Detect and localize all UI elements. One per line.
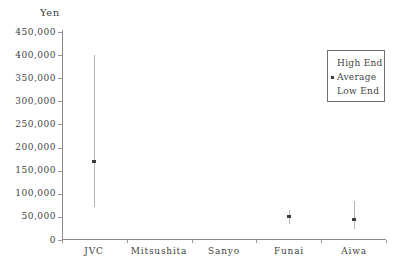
x-tick-mark: [256, 240, 257, 243]
x-tick-mark: [127, 240, 128, 243]
y-tick-mark: [58, 32, 62, 33]
legend-entry: Low End: [328, 84, 384, 98]
y-axis-title: Yen: [40, 7, 84, 18]
y-tick-mark: [58, 101, 62, 102]
x-category-label: JVC: [59, 246, 129, 257]
y-tick-label: 0: [0, 235, 56, 246]
legend-entry: High End: [328, 56, 384, 70]
y-tick-mark: [58, 148, 62, 149]
x-category-label: Funai: [254, 246, 324, 257]
y-tick-label: 400,000: [0, 50, 56, 61]
x-category-label: Sanyo: [189, 246, 259, 257]
average-marker-icon: [331, 76, 334, 79]
y-tick-label: 50,000: [0, 211, 56, 222]
x-category-label: Mitsushita: [124, 246, 194, 257]
y-tick-label: 300,000: [0, 96, 56, 107]
average-marker: [287, 215, 291, 218]
legend: High EndAverageLow End: [327, 50, 385, 102]
y-tick-mark: [58, 78, 62, 79]
legend-entry: Average: [328, 70, 384, 84]
x-tick-mark: [62, 240, 63, 243]
y-tick-label: 200,000: [0, 142, 56, 153]
average-marker: [92, 160, 96, 163]
y-tick-label: 100,000: [0, 188, 56, 199]
legend-items: High EndAverageLow End: [328, 56, 384, 98]
y-tick-mark: [58, 217, 62, 218]
y-tick-label: 350,000: [0, 73, 56, 84]
y-tick-mark: [58, 124, 62, 125]
y-tick-label: 150,000: [0, 165, 56, 176]
y-tick-mark: [58, 194, 62, 195]
x-tick-mark: [192, 240, 193, 243]
average-marker: [352, 218, 356, 221]
y-tick-label: 250,000: [0, 119, 56, 130]
x-tick-mark: [321, 240, 322, 243]
y-tick-label: 450,000: [0, 27, 56, 38]
high-low-range-line: [94, 55, 95, 207]
x-category-label: Aiwa: [319, 246, 389, 257]
y-tick-mark: [58, 55, 62, 56]
high-low-range-line: [354, 201, 355, 229]
chart-canvas: Yen 050,000100,000150,000200,000250,0003…: [0, 0, 404, 275]
y-tick-mark: [58, 171, 62, 172]
x-tick-mark: [386, 240, 387, 243]
